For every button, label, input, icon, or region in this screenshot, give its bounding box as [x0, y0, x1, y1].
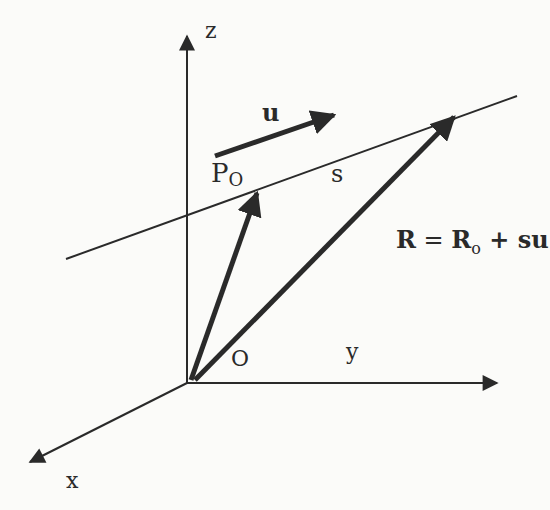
point-p0-label: PO: [211, 160, 243, 189]
direction-vector-label: u: [262, 101, 279, 125]
x-axis: [30, 383, 187, 462]
equation-r0: R: [451, 225, 471, 254]
point-p0-subscript: O: [229, 169, 244, 190]
equation-equals: =: [416, 226, 451, 254]
y-axis-label: y: [346, 341, 358, 363]
line-equation: R = Ro + su: [396, 228, 549, 257]
diagram-canvas: z x y O u s PO R = Ro + su: [0, 0, 550, 510]
x-axis-label: x: [66, 470, 78, 492]
parameter-label: s: [331, 162, 343, 186]
z-axis-label: z: [205, 20, 217, 42]
equation-lhs: R: [396, 225, 416, 254]
point-p0-main: P: [211, 158, 229, 188]
equation-plus-su: + su: [481, 225, 549, 254]
origin-label: O: [231, 348, 249, 370]
equation-r0-subscript: o: [471, 239, 481, 258]
